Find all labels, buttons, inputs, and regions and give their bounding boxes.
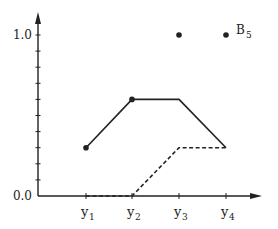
y-axis-arrow-icon <box>35 12 41 24</box>
axes <box>35 12 262 199</box>
data-point-marker <box>129 97 135 103</box>
x-tick-label-subscript: 2 <box>135 212 141 222</box>
series-dashed-line <box>86 148 226 196</box>
x-tick-label-subscript: 1 <box>89 212 95 222</box>
x-tick-label: y <box>80 204 89 219</box>
series-solid-line <box>86 99 226 147</box>
series-layer <box>83 32 229 196</box>
x-tick-label-subscript: 3 <box>182 212 188 222</box>
x-tick-label: y <box>220 204 229 219</box>
data-point-marker <box>83 145 89 151</box>
annotation-label-subscript: 5 <box>246 30 252 40</box>
annotation-label: B <box>236 23 245 37</box>
x-axis-arrow-icon <box>250 193 262 199</box>
data-point-marker <box>176 32 182 38</box>
x-tick-label: y <box>173 204 182 219</box>
data-point-marker <box>223 32 229 38</box>
chart-plot: 0.01.0y1y2y3y4B5 <box>0 0 278 229</box>
y-tick-label: 0.0 <box>13 189 32 203</box>
x-tick-label-subscript: 4 <box>229 212 235 222</box>
chart: 0.01.0y1y2y3y4B5 <box>0 0 278 229</box>
labels-layer: 0.01.0y1y2y3y4B5 <box>13 23 252 222</box>
x-tick-label: y <box>126 204 135 219</box>
y-tick-label: 1.0 <box>13 28 32 42</box>
